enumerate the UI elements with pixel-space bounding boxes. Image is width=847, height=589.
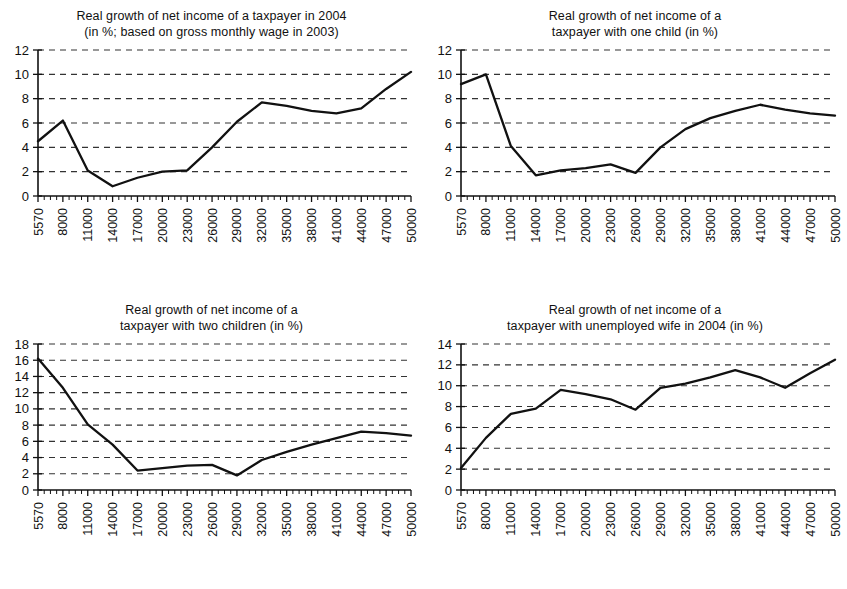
x-axis-tick-label: 23000 <box>181 208 195 243</box>
data-series-line <box>461 74 835 175</box>
x-axis-tick-label: 11000 <box>504 208 518 242</box>
x-axis-tick-label: 8000 <box>56 208 70 236</box>
chart-panel-bottom-right: Real growth of net income of a taxpayer … <box>423 294 847 589</box>
x-axis-tick-label: 8000 <box>479 502 493 530</box>
y-axis-tick-label: 2 <box>445 462 452 477</box>
y-axis-tick-label: 10 <box>15 67 29 82</box>
y-axis-tick-label: 8 <box>22 418 29 433</box>
x-axis-tick-label: 29000 <box>654 208 668 243</box>
x-axis-tick-label: 17000 <box>131 502 145 537</box>
chart-figure-grid: Real growth of net income of a taxpayer … <box>0 0 847 589</box>
x-axis-tick-label: 11000 <box>81 502 95 536</box>
x-axis-tick-label: 32000 <box>255 208 269 243</box>
x-axis-tick-label: 50000 <box>405 502 419 537</box>
x-axis-tick-label: 47000 <box>804 502 818 537</box>
y-axis-tick-label: 18 <box>15 337 29 352</box>
x-axis-tick-label: 20000 <box>156 502 170 537</box>
x-axis-tick-label: 35000 <box>280 502 294 537</box>
x-axis-tick-label: 44000 <box>355 208 369 243</box>
y-axis-tick-label: 2 <box>445 164 452 179</box>
x-axis-tick-label: 50000 <box>405 208 419 243</box>
y-axis-tick-label: 2 <box>22 466 29 481</box>
x-axis-tick-label: 26000 <box>629 502 643 537</box>
y-axis-tick-label: 2 <box>22 164 29 179</box>
x-axis-tick-label: 29000 <box>230 208 244 243</box>
x-axis-tick-label: 41000 <box>330 208 344 243</box>
x-axis-tick-label: 38000 <box>305 502 319 537</box>
chart-svg-bottom-left: 0246810121416185570800011000140001700020… <box>0 294 423 589</box>
y-axis-tick-label: 0 <box>22 483 29 498</box>
x-axis-tick-label: 41000 <box>330 502 344 537</box>
y-axis-tick-label: 14 <box>438 337 452 352</box>
x-axis-tick-label: 17000 <box>131 208 145 243</box>
y-axis-tick-label: 12 <box>438 357 452 372</box>
x-axis-tick-label: 47000 <box>380 502 394 537</box>
x-axis-tick-label: 35000 <box>280 208 294 243</box>
y-axis-tick-label: 4 <box>445 140 452 155</box>
x-axis-tick-label: 32000 <box>679 208 693 243</box>
y-axis-tick-label: 8 <box>445 91 452 106</box>
x-axis-tick-label: 44000 <box>779 208 793 243</box>
x-axis-tick-label: 38000 <box>305 208 319 243</box>
y-axis-tick-label: 8 <box>22 91 29 106</box>
y-axis-tick-label: 0 <box>445 483 452 498</box>
x-axis-tick-label: 32000 <box>679 502 693 537</box>
x-axis-tick-label: 29000 <box>230 502 244 537</box>
x-axis-tick-label: 26000 <box>206 208 220 243</box>
x-axis-tick-label: 26000 <box>629 208 643 243</box>
x-axis-tick-label: 8000 <box>479 208 493 236</box>
x-axis-tick-label: 41000 <box>754 208 768 243</box>
y-axis-tick-label: 0 <box>445 189 452 204</box>
y-axis-tick-label: 8 <box>445 399 452 414</box>
x-axis-tick-label: 50000 <box>829 502 843 537</box>
x-axis-tick-label: 26000 <box>206 502 220 537</box>
x-axis-tick-label: 38000 <box>729 502 743 537</box>
x-axis-tick-label: 14000 <box>106 208 120 243</box>
chart-svg-top-left: 0246810125570800011000140001700020000230… <box>0 0 423 294</box>
x-axis-tick-label: 23000 <box>181 502 195 537</box>
data-series-line <box>461 360 835 468</box>
y-axis-tick-label: 10 <box>15 401 29 416</box>
x-axis-tick-label: 50000 <box>829 208 843 243</box>
x-axis-tick-label: 5570 <box>455 208 469 236</box>
x-axis-tick-label: 32000 <box>255 502 269 537</box>
x-axis-tick-label: 47000 <box>380 208 394 243</box>
x-axis-tick-label: 23000 <box>604 502 618 537</box>
x-axis-tick-label: 35000 <box>704 502 718 537</box>
x-axis-tick-label: 14000 <box>529 502 543 537</box>
y-axis-tick-label: 10 <box>438 67 452 82</box>
x-axis-tick-label: 20000 <box>579 502 593 537</box>
x-axis-tick-label: 5570 <box>32 502 46 530</box>
y-axis-tick-label: 16 <box>15 353 29 368</box>
x-axis-tick-label: 14000 <box>529 208 543 243</box>
x-axis-tick-label: 17000 <box>554 208 568 243</box>
x-axis-tick-label: 5570 <box>32 208 46 236</box>
x-axis-tick-label: 17000 <box>554 502 568 537</box>
y-axis-tick-label: 4 <box>22 140 29 155</box>
x-axis-tick-label: 35000 <box>704 208 718 243</box>
x-axis-tick-label: 44000 <box>355 502 369 537</box>
x-axis-tick-label: 38000 <box>729 208 743 243</box>
data-series-line <box>38 72 411 186</box>
y-axis-tick-label: 12 <box>15 43 29 58</box>
chart-svg-bottom-right: 0246810121455708000110001400017000200002… <box>423 294 847 589</box>
y-axis-tick-label: 12 <box>15 385 29 400</box>
x-axis-tick-label: 47000 <box>804 208 818 243</box>
y-axis-tick-label: 6 <box>22 116 29 131</box>
x-axis-tick-label: 14000 <box>106 502 120 537</box>
x-axis-tick-label: 44000 <box>779 502 793 537</box>
x-axis-tick-label: 20000 <box>156 208 170 243</box>
y-axis-tick-label: 0 <box>22 189 29 204</box>
x-axis-tick-label: 5570 <box>455 502 469 530</box>
y-axis-tick-label: 12 <box>438 43 452 58</box>
x-axis-tick-label: 11000 <box>504 502 518 536</box>
x-axis-tick-label: 20000 <box>579 208 593 243</box>
y-axis-tick-label: 10 <box>438 378 452 393</box>
x-axis-tick-label: 41000 <box>754 502 768 537</box>
chart-panel-top-left: Real growth of net income of a taxpayer … <box>0 0 423 294</box>
y-axis-tick-label: 4 <box>22 450 29 465</box>
y-axis-tick-label: 6 <box>445 116 452 131</box>
y-axis-tick-label: 6 <box>22 434 29 449</box>
y-axis-tick-label: 4 <box>445 441 452 456</box>
x-axis-tick-label: 29000 <box>654 502 668 537</box>
